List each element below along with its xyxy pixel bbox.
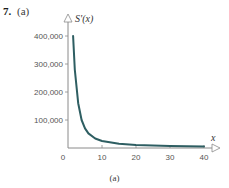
x-axis-title: x [210, 132, 216, 143]
y-axis-title: S'(x) [75, 13, 94, 25]
y-tick-label: 300,000 [34, 60, 63, 69]
y-tick-label: 400,000 [34, 32, 63, 41]
y-tick-label: 200,000 [34, 88, 63, 97]
chart: S'(x)x100,000200,000300,000400,000010203… [0, 0, 229, 188]
x-axis-arrow-icon [212, 144, 220, 152]
figure-caption: (a) [0, 173, 229, 183]
x-tick-label: 10 [98, 153, 107, 162]
series-line [73, 36, 204, 147]
x-tick-label: 30 [166, 153, 175, 162]
x-tick-label: 40 [200, 153, 209, 162]
x-tick-label: 0 [61, 153, 66, 162]
y-axis-arrow-icon [64, 14, 72, 22]
y-tick-label: 100,000 [34, 116, 63, 125]
x-tick-label: 20 [132, 153, 141, 162]
